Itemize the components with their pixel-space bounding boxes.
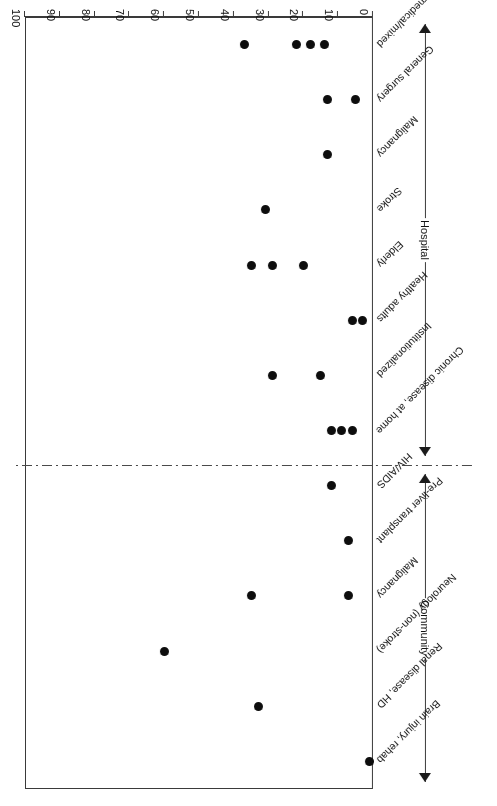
data-point [160, 647, 169, 656]
x-tick-100 [24, 11, 25, 17]
data-point [327, 481, 336, 490]
data-point [299, 261, 308, 270]
data-point [358, 316, 367, 325]
x-tick-60 [163, 11, 164, 17]
x-tick-label-10: 10 [323, 9, 334, 21]
x-tick-40 [233, 11, 234, 17]
x-tick-0 [372, 11, 373, 17]
arrow-head-down-icon [420, 24, 432, 33]
data-point [268, 261, 277, 270]
community-group-arrow: Community [413, 474, 437, 782]
arrow-head-up-icon [420, 773, 432, 782]
data-point [348, 316, 357, 325]
x-axis-line [25, 16, 373, 17]
x-tick-label-20: 20 [288, 9, 299, 21]
plot-area [25, 17, 373, 789]
x-tick-90 [59, 11, 60, 17]
x-tick-label-100: 100 [10, 9, 21, 27]
data-point [268, 371, 277, 380]
x-tick-30 [268, 11, 269, 17]
x-tick-70 [128, 11, 129, 17]
data-point [306, 40, 315, 49]
x-tick-label-70: 70 [114, 9, 125, 21]
x-tick-label-60: 60 [149, 9, 160, 21]
x-tick-10 [337, 11, 338, 17]
dot-plot-figure: 0102030405060708090100 Proportion of pat… [0, 0, 497, 806]
x-tick-label-0: 0 [358, 9, 369, 15]
x-tick-label-90: 90 [45, 9, 56, 21]
data-point [292, 40, 301, 49]
data-point [240, 40, 249, 49]
x-tick-20 [302, 11, 303, 17]
data-point [247, 261, 256, 270]
data-point [365, 757, 374, 766]
x-tick-label-30: 30 [254, 9, 265, 21]
x-tick-label-50: 50 [184, 9, 195, 21]
x-tick-50 [198, 11, 199, 17]
x-tick-label-80: 80 [80, 9, 91, 21]
data-point [327, 426, 336, 435]
x-tick-80 [94, 11, 95, 17]
x-tick-label-40: 40 [219, 9, 230, 21]
data-point [348, 426, 357, 435]
figure-rotator: 0102030405060708090100 Proportion of pat… [0, 0, 497, 806]
data-point [254, 702, 263, 711]
data-point [320, 40, 329, 49]
